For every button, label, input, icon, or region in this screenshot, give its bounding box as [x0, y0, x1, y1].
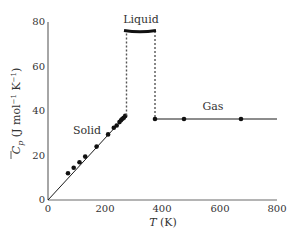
x-label-unit: (K): [157, 216, 177, 229]
series-liquid: [124, 31, 156, 32]
phase-label-gas: Gas: [203, 100, 224, 113]
y-tick: 80: [32, 16, 45, 27]
x-axis-label: T (K): [149, 216, 177, 229]
y-tick-labels: 0 20 40 60 80: [32, 16, 45, 205]
y-label-k: K: [10, 82, 23, 94]
data-point: [106, 132, 111, 137]
liquid-line: [124, 31, 156, 32]
data-point: [83, 154, 88, 159]
y-tick: 20: [32, 150, 45, 161]
data-point: [77, 160, 82, 165]
data-point: [71, 165, 76, 170]
data-point: [182, 117, 187, 122]
x-tick: 0: [45, 203, 51, 214]
x-tick: 800: [267, 203, 286, 214]
axes: [48, 22, 277, 200]
data-point: [153, 117, 158, 122]
x-tick: 600: [210, 203, 229, 214]
heat-capacity-chart: 0 200 400 600 800 0 20 40 60 80 T (K) Cp…: [0, 0, 300, 236]
y-label-close: ): [10, 68, 23, 72]
y-label-exp: −1: [10, 94, 18, 104]
y-tick: 0: [39, 194, 45, 205]
x-tick-labels: 0 200 400 600 800: [45, 203, 287, 214]
data-point: [66, 171, 71, 176]
phase-label-liquid: Liquid: [123, 13, 159, 26]
y-label-unit: (J mol: [10, 104, 23, 141]
svg-text:Cp (J mol−1 K−1): Cp (J mol−1 K−1): [10, 68, 25, 154]
phase-label-solid: Solid: [73, 124, 101, 137]
y-tick: 40: [32, 105, 45, 116]
x-tick: 400: [152, 203, 171, 214]
data-point: [239, 117, 244, 122]
series-gas: [153, 117, 277, 122]
y-axis-label: Cp (J mol−1 K−1): [10, 68, 25, 159]
x-tick: 200: [95, 203, 114, 214]
y-label-exp: −1: [10, 72, 18, 82]
y-tick: 60: [32, 61, 45, 72]
data-point: [94, 144, 99, 149]
